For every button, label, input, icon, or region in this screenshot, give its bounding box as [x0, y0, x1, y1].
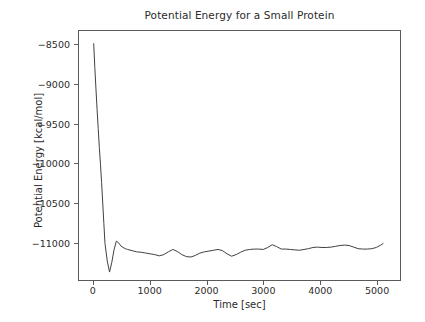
x-tick-label: 0	[90, 285, 96, 296]
x-tick-label: 2000	[194, 285, 218, 296]
y-tick-mark	[74, 203, 78, 204]
y-tick-mark	[74, 243, 78, 244]
x-tick-label: 4000	[308, 285, 332, 296]
y-axis-label: Potential Energy [kcal/mol]	[33, 51, 44, 271]
x-tick-mark	[263, 281, 264, 285]
y-axis-tick-labels: −8500−9000−9500−10000−10500−11000	[22, 0, 70, 322]
x-tick-label: 3000	[251, 285, 275, 296]
plot-area	[78, 30, 401, 281]
series-potential-energy	[94, 44, 383, 272]
x-tick-label: 5000	[365, 285, 389, 296]
y-tick-mark	[74, 124, 78, 125]
chart-figure: Potential Energy for a Small Protein −85…	[0, 0, 425, 322]
x-tick-mark	[207, 281, 208, 285]
x-tick-mark	[93, 281, 94, 285]
x-tick-mark	[150, 281, 151, 285]
data-line-series	[79, 31, 400, 280]
y-tick-mark	[74, 163, 78, 164]
y-tick-mark	[74, 44, 78, 45]
y-tick-mark	[74, 84, 78, 85]
x-tick-mark	[377, 281, 378, 285]
y-tick-label: −8500	[38, 38, 70, 49]
chart-title: Potential Energy for a Small Protein	[78, 9, 401, 21]
x-tick-label: 1000	[138, 285, 162, 296]
x-tick-mark	[320, 281, 321, 285]
x-axis-label: Time [sec]	[78, 299, 401, 310]
